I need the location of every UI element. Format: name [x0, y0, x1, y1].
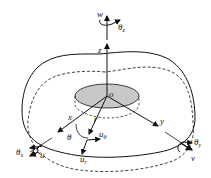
- label-theta: θ: [67, 132, 72, 142]
- label-u-theta: uθ: [99, 129, 107, 140]
- theta-z-rotation-arc: [100, 20, 120, 25]
- label-v: v: [191, 153, 195, 163]
- u-theta-arrow: [87, 139, 100, 140]
- label-x: x: [67, 112, 72, 122]
- u-r-arrow: [82, 140, 87, 154]
- label-u: u: [40, 150, 45, 160]
- theta-y-rotation-arc: [178, 142, 192, 152]
- label-w: w: [97, 9, 103, 19]
- label-y: y: [159, 116, 164, 126]
- label-r: r: [94, 114, 98, 124]
- label-u-r: ur: [80, 154, 88, 165]
- label-theta-x: θx: [16, 147, 23, 158]
- label-theta-z: θz: [118, 22, 125, 33]
- u-arrow: [30, 152, 38, 156]
- theta-angle-arc: [76, 124, 88, 138]
- plate-inner-dashed-boundary: [28, 67, 194, 171]
- plate-diagram: w θz z o x y r θ uθ ur θx u θy v: [0, 0, 211, 178]
- label-theta-y: θy: [194, 137, 201, 148]
- label-z: z: [97, 45, 102, 55]
- label-origin-o: o: [109, 89, 114, 99]
